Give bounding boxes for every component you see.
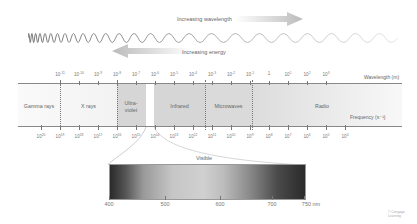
visible-tick-label: 400 [104, 201, 113, 207]
wavelength-tick-label: 10-6 [151, 71, 159, 77]
wavelength-tick-label: 10-10 [74, 71, 84, 77]
wavelength-tick-label: 10-11 [55, 71, 65, 77]
wavelength-tick-label: 102 [304, 71, 311, 77]
wavelength-tick-label: 10-1 [246, 71, 254, 77]
tick-mark [79, 81, 80, 85]
wavelength-tick-label: 10-5 [170, 71, 178, 77]
increasing-wavelength-arrow: Increasing wavelength [175, 12, 303, 26]
increasing-energy-label: Increasing energy [182, 49, 226, 55]
visible-tick-label: 700 [267, 201, 276, 207]
tick-mark [326, 81, 327, 85]
increasing-wavelength-label: Increasing wavelength [177, 16, 232, 22]
tick-mark [304, 196, 305, 200]
tick-mark [155, 81, 156, 85]
visible-spectrum-bar [109, 164, 306, 200]
band-gamma: Gamma rays [18, 89, 60, 124]
wavelength-tick-label: 10-7 [132, 71, 140, 77]
wavelength-axis-line [18, 83, 402, 84]
band-microwaves: Microwaves [205, 89, 252, 124]
visible-tick-label: 750 nm [302, 201, 320, 207]
tick-mark [193, 81, 194, 85]
wavelength-tick-label: 1 [268, 71, 271, 76]
wavelength-tick-label: 10-9 [94, 71, 102, 77]
tick-mark [174, 81, 175, 85]
tick-mark [220, 196, 221, 200]
tick-mark [269, 81, 270, 85]
visible-tick-label: 600 [215, 201, 224, 207]
tick-mark [60, 81, 61, 85]
wavelength-tick-label: 103 [323, 71, 330, 77]
tick-mark [307, 81, 308, 85]
tick-mark [288, 81, 289, 85]
visible-tick-label: 500 [160, 201, 169, 207]
tick-mark [272, 196, 273, 200]
tick-mark [165, 196, 166, 200]
visible-title: Visible [196, 155, 212, 161]
wavelength-tick-label: 10-4 [189, 71, 197, 77]
tick-mark [136, 81, 137, 85]
tick-mark [117, 81, 118, 85]
increasing-energy-arrow: Increasing energy [112, 44, 242, 58]
visible-zoom-lines [0, 120, 417, 170]
band-uv: Ultra-violet [120, 89, 142, 124]
wavelength-tick-label: 10-3 [208, 71, 216, 77]
tick-mark [109, 196, 110, 200]
tick-mark [98, 81, 99, 85]
tick-mark [212, 81, 213, 85]
tick-mark [231, 81, 232, 85]
wavelength-tick-label: 10-8 [113, 71, 121, 77]
wavelength-axis-label: Wavelength (m) [364, 74, 399, 80]
wavelength-tick-label: 10-2 [227, 71, 235, 77]
tick-mark [250, 81, 251, 85]
wavelength-tick-label: 101 [285, 71, 292, 77]
credit: © Cengage Learning [388, 210, 417, 218]
band-infrared: Infrared [154, 89, 205, 124]
band-xray: X rays [60, 89, 117, 124]
